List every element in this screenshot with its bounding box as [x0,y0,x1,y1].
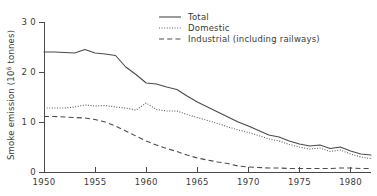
legend-label-0: Total [187,12,209,22]
x-tick-label: 1950 [33,177,56,187]
x-axis-ticks: 1950195519601965197019751980 [33,167,362,187]
series-lines [44,50,371,169]
y-axis-title-main: Smoke emission (10 [6,70,16,160]
y-tick-label: 0 [30,167,36,177]
y-axis-ticks: 01 02 03 0 [22,17,44,177]
svg-text:Smoke emission (106 tonnes): Smoke emission (106 tonnes) [5,30,16,160]
y-tick-label: 2 0 [22,67,36,77]
y-axis-title: Smoke emission (106 tonnes) [5,30,16,160]
x-tick-label: 1975 [288,177,311,187]
x-tick-label: 1970 [237,177,260,187]
legend-label-2: Industrial (including railways) [188,34,320,44]
x-tick-label: 1965 [186,177,209,187]
smoke-emission-chart: 01 02 03 0 1950195519601965197019751980 … [0,0,377,196]
x-tick-label: 1960 [135,177,158,187]
y-tick-label: 3 0 [22,17,36,27]
y-axis-title-tail: tonnes) [6,30,16,67]
x-tick-label: 1980 [339,177,362,187]
series-line-domestic [44,103,371,159]
series-line-total [44,50,371,156]
series-line-industrial [44,117,371,169]
y-tick-label: 1 0 [22,117,36,127]
x-tick-label: 1955 [84,177,107,187]
chart-legend: TotalDomesticIndustrial (including railw… [159,12,320,44]
legend-label-1: Domestic [188,23,230,33]
chart-canvas: 01 02 03 0 1950195519601965197019751980 … [0,0,377,196]
